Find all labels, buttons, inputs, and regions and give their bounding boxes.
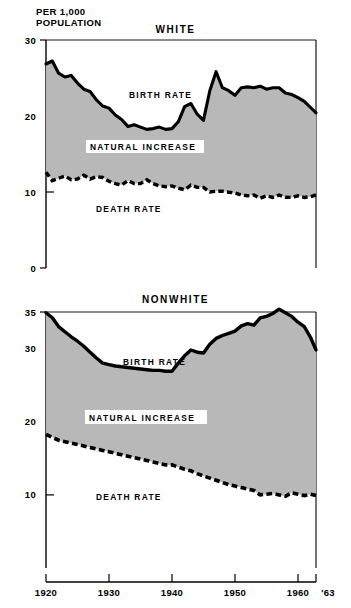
nonwhite-ytick-35: 35 [25, 307, 37, 318]
nonwhite-panel-chart: 35 30 20 10 BIRTH RATE NATURAL INCREASE … [0, 300, 351, 570]
white-panel-chart: 30 20 10 0 BIRTH RATE NATURAL INCREASE D… [0, 30, 351, 275]
x-axis: 1920 1930 1940 1950 1960 '63 [0, 560, 351, 608]
xtick-63: '63 [321, 587, 335, 598]
vital-rates-figure: PER 1,000 POPULATION WHITE 30 20 10 0 BI… [0, 0, 351, 608]
nonwhite-ytick-20: 20 [25, 416, 36, 427]
nonwhite-ytick-30: 30 [25, 343, 36, 354]
xtick-1930: 1930 [98, 587, 120, 598]
white-birth-rate-label: BIRTH RATE [129, 90, 192, 100]
white-ytick-20: 20 [25, 111, 36, 122]
white-ytick-30: 30 [25, 35, 36, 46]
white-death-rate-label: DEATH RATE [96, 204, 162, 214]
white-ytick-10: 10 [25, 187, 36, 198]
xtick-1940: 1940 [161, 587, 183, 598]
nonwhite-birth-rate-label: BIRTH RATE [123, 357, 186, 367]
xtick-1950: 1950 [224, 587, 246, 598]
nonwhite-ytick-10: 10 [25, 489, 36, 500]
xtick-1920: 1920 [35, 587, 57, 598]
nonwhite-natural-increase-label: NATURAL INCREASE [89, 413, 195, 423]
white-ytick-0: 0 [30, 263, 36, 274]
xtick-1960: 1960 [287, 587, 309, 598]
white-natural-increase-label: NATURAL INCREASE [90, 142, 196, 152]
nonwhite-death-rate-label: DEATH RATE [96, 492, 162, 502]
